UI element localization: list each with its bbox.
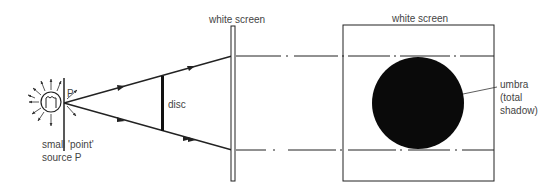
- screen1-label: white screen: [209, 14, 265, 25]
- screen2-label: white screen: [392, 13, 448, 24]
- ray-top: [64, 56, 232, 103]
- umbra-label-1: umbra: [500, 79, 528, 90]
- source-label-1: small 'point': [42, 139, 94, 150]
- umbra-leader: [463, 87, 497, 94]
- light-bulb-icon: [28, 79, 77, 126]
- disc-label: disc: [168, 99, 186, 110]
- disc: [161, 76, 164, 131]
- source-label-2: source P: [42, 152, 81, 163]
- umbra-label-3: shadow): [500, 105, 538, 116]
- diagram-graphic: [0, 0, 554, 196]
- screen-side-view: [231, 26, 235, 181]
- point-label: P: [67, 88, 74, 99]
- umbra-label-2: (total: [500, 92, 522, 103]
- shadow-diagram: white screen white screen P disc small '…: [0, 0, 554, 196]
- umbra-shadow: [372, 57, 464, 149]
